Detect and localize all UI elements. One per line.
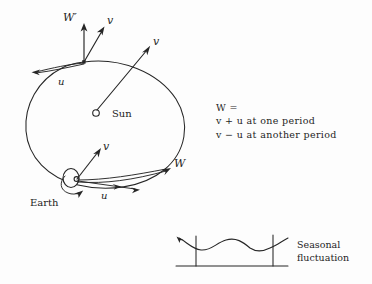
v-orbit-vector-label: v (153, 35, 160, 48)
w-definition-line-3: v − u at another period (216, 128, 337, 141)
w-definition-line-1: W = (216, 101, 337, 114)
v-earth-vector-label: v (103, 140, 110, 153)
u-top-vector-label: u (58, 76, 64, 87)
w-earth-vector-label: W (174, 157, 187, 170)
seasonal-caption-line-1: Seasonal (297, 238, 349, 251)
v-top-vector-shaft (84, 31, 102, 62)
w-definition-line-2: v + u at one period (216, 114, 337, 127)
sun-label: Sun (112, 108, 132, 119)
w-prime-vector-label: W′ (63, 11, 77, 24)
u-earth-mid-arrowhead (113, 184, 121, 190)
seasonal-wave-start-tick (177, 237, 184, 244)
v-orbit-vector-shaft (97, 50, 147, 110)
orbit-ellipse (26, 61, 185, 188)
u-earth-vector-label: u (101, 190, 107, 201)
earth-label: Earth (30, 197, 59, 208)
u-top-vector-shaft-lower (36, 64, 84, 73)
v-top-vector-label: v (107, 14, 114, 27)
seasonal-wave-curve (179, 238, 288, 251)
seasonal-caption-line-2: fluctuation (297, 251, 349, 264)
w-definition-block: W = v + u at one period v − u at another… (216, 101, 337, 141)
u-top-vector-shaft-upper (36, 63, 84, 72)
sun-marker (93, 110, 100, 117)
v-earth-vector-shaft (77, 152, 98, 179)
seasonal-fluctuation-caption: Seasonal fluctuation (297, 238, 349, 264)
top-vertex-node (82, 60, 85, 63)
u-earth-vector-arrowhead (131, 188, 140, 194)
